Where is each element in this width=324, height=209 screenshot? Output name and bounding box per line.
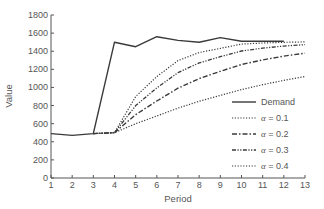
y-tick-label: 1800 [28, 10, 48, 20]
x-tick-label: 9 [218, 180, 223, 190]
x-tick-label: 13 [300, 180, 310, 190]
x-tick-label: 5 [133, 180, 138, 190]
x-axis-title: Period [164, 193, 191, 204]
x-tick-label: 7 [175, 180, 180, 190]
series-line-demand [51, 37, 284, 136]
legend-label: α = 0.4 [261, 161, 289, 171]
x-tick-label: 8 [197, 180, 202, 190]
x-tick-label: 1 [48, 180, 53, 190]
y-tick-label: 200 [33, 155, 48, 165]
x-tick-label: 12 [279, 180, 289, 190]
legend-label: Demand [261, 97, 295, 107]
x-tick-label: 3 [91, 180, 96, 190]
x-tick-label: 4 [112, 180, 117, 190]
x-tick-label: 2 [70, 180, 75, 190]
y-axis-title: Value [3, 84, 14, 108]
x-tick-label: 6 [154, 180, 159, 190]
y-tick-label: 1000 [28, 82, 48, 92]
legend-label: α = 0.3 [261, 145, 289, 155]
y-tick-label: 600 [33, 119, 48, 129]
legend: Demandα = 0.1α = 0.2α = 0.3α = 0.4 [232, 97, 295, 171]
y-tick-label: 1200 [28, 64, 48, 74]
y-tick-label: 800 [33, 101, 48, 111]
x-tick-label: 11 [258, 180, 267, 190]
y-tick-label: 1600 [28, 28, 48, 38]
exponential-smoothing-chart: 0200400600800100012001400160018001234567… [0, 0, 324, 209]
y-tick-label: 400 [33, 137, 48, 147]
y-tick-label: 1400 [28, 46, 48, 56]
x-tick-label: 10 [236, 180, 246, 190]
legend-label: α = 0.1 [261, 113, 289, 123]
legend-label: α = 0.2 [261, 129, 289, 139]
y-tick-label: 0 [43, 173, 48, 183]
